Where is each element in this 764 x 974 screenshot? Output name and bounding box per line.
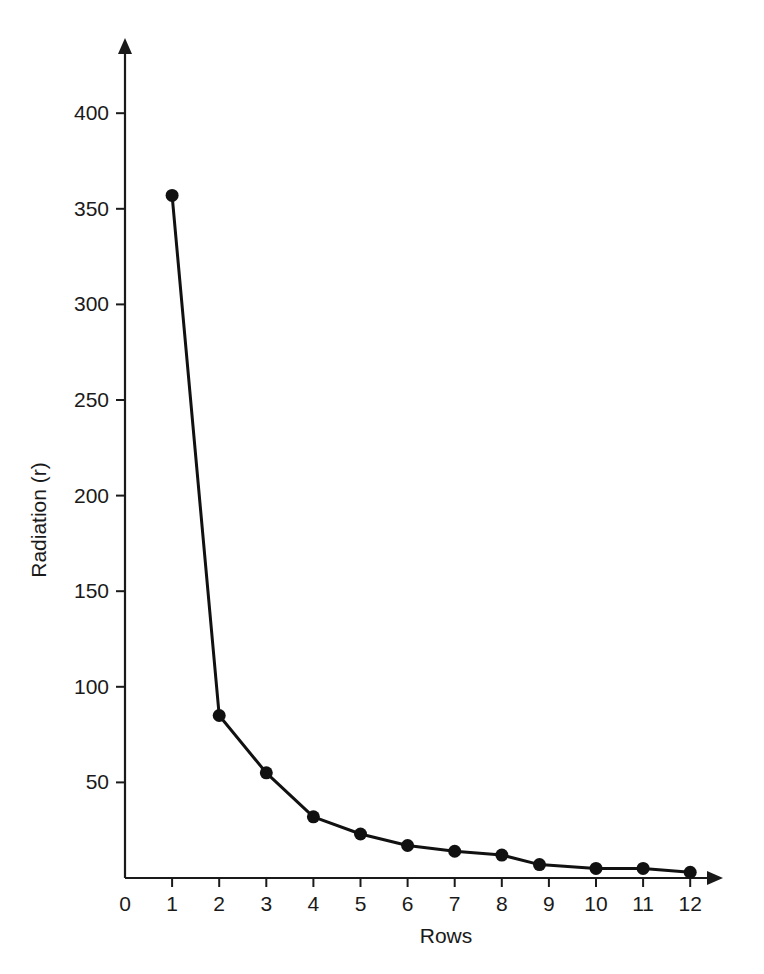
x-tick-label: 12 [679, 892, 702, 915]
x-tick-label: 1 [166, 892, 178, 915]
x-tick-label: 11 [632, 892, 654, 915]
data-point-marker [495, 849, 508, 862]
data-point-marker [684, 866, 697, 879]
data-point-marker [213, 709, 226, 722]
y-tick-label: 300 [74, 292, 109, 315]
data-point-marker [590, 862, 603, 875]
x-tick-label: 0 [119, 892, 131, 915]
x-tick-label: 7 [449, 892, 461, 915]
x-tick-label: 6 [402, 892, 414, 915]
x-tick-label: 8 [496, 892, 508, 915]
data-point-marker [401, 839, 414, 852]
y-tick-label: 250 [74, 388, 109, 411]
x-tick-label: 5 [355, 892, 367, 915]
x-axis-title: Rows [420, 924, 473, 947]
x-tick-label: 4 [308, 892, 320, 915]
radiation-vs-rows-chart: 50100150200250300350400 0123456789101112… [0, 0, 764, 974]
y-tick-label: 50 [86, 770, 109, 793]
x-tick-label: 9 [543, 892, 555, 915]
data-point-marker [637, 862, 650, 875]
data-point-marker [354, 828, 367, 841]
chart-background [0, 0, 764, 974]
y-tick-label: 100 [74, 675, 109, 698]
y-tick-label: 150 [74, 579, 109, 602]
y-tick-label: 200 [74, 484, 109, 507]
y-tick-label: 400 [74, 101, 109, 124]
data-point-marker [448, 845, 461, 858]
data-point-marker [533, 858, 546, 871]
data-point-marker [260, 766, 273, 779]
data-point-marker [166, 189, 179, 202]
y-tick-label: 350 [74, 197, 109, 220]
data-point-marker [307, 810, 320, 823]
y-axis-title: Radiation (r) [27, 462, 50, 578]
figure-root: 50100150200250300350400 0123456789101112… [0, 0, 764, 974]
x-tick-label: 3 [260, 892, 272, 915]
x-tick-label: 10 [584, 892, 607, 915]
x-tick-label: 2 [213, 892, 225, 915]
